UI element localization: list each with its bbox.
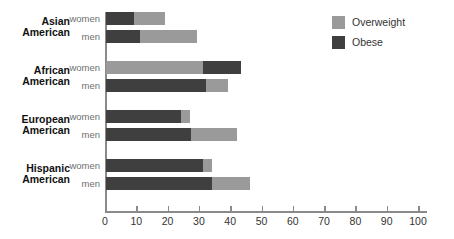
group-label-line1: African [34,64,70,76]
x-axis: 0102030405060708090100 [105,211,450,239]
group-label-line1: Hispanic [26,162,70,174]
x-tick-mark [418,206,420,211]
group-label-line2: American [0,76,70,88]
bar-row [106,177,250,190]
x-tick-mark [262,206,264,211]
x-tick-mark [324,206,326,211]
plot-area [105,12,450,212]
x-tick-mark [136,206,138,211]
x-tick-mark [387,206,389,211]
group-label-line2: American [0,27,70,39]
x-tick-label: 40 [215,215,245,227]
bar-row [106,12,165,25]
bar-segment-obese [106,12,134,25]
bar-segment-overweight [181,110,190,123]
bar-segment-obese [106,79,206,92]
bar-segment-overweight [106,61,203,74]
x-tick-mark [355,206,357,211]
group-label-line2: American [0,174,70,186]
x-tick-mark [293,206,295,211]
group-label-asian-american: AsianAmerican [0,16,70,39]
bar-segment-overweight [191,128,238,141]
x-tick-label: 80 [340,215,370,227]
x-tick-label: 70 [309,215,339,227]
group-label-line1: European [22,113,70,125]
x-axis-line [105,211,427,213]
group-label-european-american: EuropeanAmerican [0,114,70,137]
x-tick-label: 60 [278,215,308,227]
bar-row [106,128,237,141]
bar-segment-obese [106,110,181,123]
x-tick-label: 0 [90,215,120,227]
x-tick-label: 100 [403,215,433,227]
bar-chart: OverweightObese womenmenAsianAmericanwom… [0,0,454,239]
bar-segment-overweight [206,79,228,92]
bar-row [106,61,241,74]
bar-row [106,79,228,92]
x-tick-label: 90 [372,215,402,227]
bar-segment-obese [203,61,241,74]
bar-segment-obese [106,159,203,172]
bar-row [106,110,190,123]
x-tick-label: 20 [153,215,183,227]
x-tick-mark [168,206,170,211]
bar-segment-overweight [203,159,212,172]
x-tick-label: 50 [247,215,277,227]
x-tick-label: 10 [121,215,151,227]
bar-segment-overweight [134,12,165,25]
bar-segment-overweight [212,177,250,190]
x-tick-mark [199,206,201,211]
bar-row [106,30,197,43]
group-label-hispanic-american: HispanicAmerican [0,163,70,186]
bar-segment-obese [106,177,212,190]
bar-segment-overweight [140,30,196,43]
bar-segment-obese [106,128,191,141]
group-label-african-american: AfricanAmerican [0,65,70,88]
group-label-line2: American [0,125,70,137]
bar-segment-obese [106,30,140,43]
x-tick-mark [105,206,107,211]
x-tick-label: 30 [184,215,214,227]
group-label-line1: Asian [41,15,70,27]
bar-row [106,159,212,172]
x-tick-mark [230,206,232,211]
